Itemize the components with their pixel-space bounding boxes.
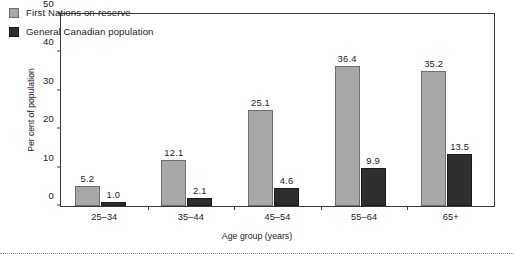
x-axis-tick-mark	[321, 206, 322, 210]
x-axis-category-label: 45–54	[234, 212, 321, 222]
bar-chart-figure: Per cent of population 010203040505.21.0…	[0, 0, 514, 264]
legend-item: First Nations on-reserve	[9, 5, 154, 20]
bar	[447, 154, 472, 206]
y-axis-tick-label: 30	[43, 74, 61, 85]
bar-value-label: 12.1	[155, 147, 192, 158]
x-axis-category-label: 55–64	[321, 212, 408, 222]
y-axis-tick-mark	[57, 51, 61, 52]
bar-value-label: 1.0	[95, 189, 132, 200]
y-axis-tick-label: 0	[49, 190, 61, 201]
x-axis-tick-mark	[234, 206, 235, 210]
chart-legend: First Nations on-reserve General Canadia…	[9, 5, 154, 43]
y-axis-tick-label: 20	[43, 113, 61, 124]
legend-item-label: First Nations on-reserve	[26, 7, 131, 18]
legend-swatch-light-gray	[9, 8, 19, 18]
bar-value-label: 36.4	[329, 53, 366, 64]
x-axis-tick-mark	[407, 206, 408, 210]
bottom-dotted-divider	[0, 253, 514, 254]
y-axis-tick-label: 10	[43, 151, 61, 162]
x-axis-category-label: 25–34	[61, 212, 148, 222]
x-axis-title: Age group (years)	[0, 231, 514, 241]
bar	[274, 188, 299, 206]
x-axis-category-label: 35–44	[148, 212, 235, 222]
legend-item-label: General Canadian population	[26, 26, 154, 37]
x-axis-tick-mark	[148, 206, 149, 210]
bar-value-label: 25.1	[242, 97, 279, 108]
y-axis-tick-mark	[57, 128, 61, 129]
bar-value-label: 5.2	[69, 173, 106, 184]
bar	[361, 168, 386, 206]
bar	[335, 66, 360, 206]
legend-swatch-dark	[9, 27, 19, 37]
bar	[421, 71, 446, 206]
bar-value-label: 35.2	[415, 58, 452, 69]
legend-item: General Canadian population	[9, 24, 154, 39]
y-axis-tick-mark	[57, 205, 61, 206]
bar	[161, 160, 186, 206]
bar-value-label: 13.5	[441, 141, 478, 152]
bar-value-label: 9.9	[355, 155, 392, 166]
y-axis-tick-mark	[57, 166, 61, 167]
bar	[101, 202, 126, 206]
bar-value-label: 4.6	[268, 175, 305, 186]
bar	[248, 110, 273, 206]
x-axis-category-label: 65+	[407, 212, 494, 222]
bar-value-label: 2.1	[181, 185, 218, 196]
y-axis-tick-mark	[57, 89, 61, 90]
bar	[187, 198, 212, 206]
